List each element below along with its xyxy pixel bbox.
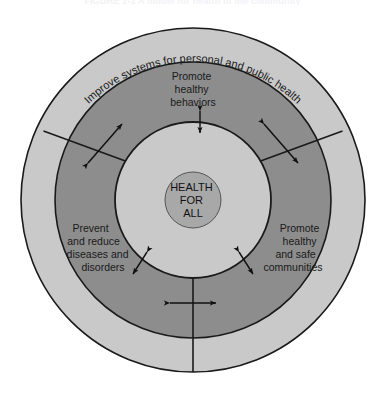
segment-line: Prevent	[72, 222, 108, 234]
figure-root: FIGURE 1-1 A model for health in the com…	[0, 0, 385, 397]
health-for-all-concentric-diagram: Improve systems for personal and public …	[0, 0, 385, 397]
segment-line: disorders	[81, 261, 124, 273]
segment-line: Promote	[172, 70, 212, 82]
core-line: FOR	[180, 194, 203, 206]
core-line: ALL	[183, 207, 203, 219]
segment-line: diseases and	[67, 248, 129, 260]
segment-line: healthy	[175, 83, 210, 95]
segment-line: healthy	[283, 235, 318, 247]
segment-line: communities	[264, 261, 323, 273]
segment-line: and safe	[275, 248, 315, 260]
core-line: HEALTH	[170, 181, 213, 193]
segment-line: and reduce	[67, 235, 120, 247]
segment-label-promote-healthy-behaviors: Promote healthy behaviors	[170, 70, 216, 108]
segment-line: Promote	[280, 222, 320, 234]
segment-line: behaviors	[170, 96, 216, 108]
